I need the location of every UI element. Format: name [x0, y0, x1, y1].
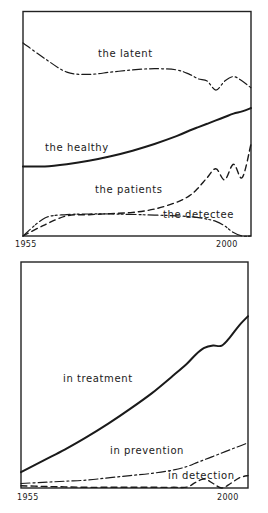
top-panel-curves — [23, 43, 251, 236]
label-in-treatment: in treatment — [63, 373, 133, 384]
label-the-healthy: the healthy — [45, 142, 109, 153]
x-tick-2000-bottom: 2000 — [217, 493, 239, 502]
label-the-detectee: the detectee — [163, 209, 234, 220]
top-panel: the latent the healthy the patients the … — [15, 12, 251, 250]
x-tick-1955-top: 1955 — [15, 240, 37, 249]
x-tick-1955-bottom: 1955 — [17, 493, 39, 502]
figure: the latent the healthy the patients the … — [0, 0, 268, 513]
label-the-patients: the patients — [95, 184, 163, 195]
top-panel-frame — [23, 12, 251, 237]
label-in-prevention: in prevention — [110, 445, 184, 456]
label-the-latent: the latent — [98, 48, 153, 59]
x-tick-2000-top: 2000 — [216, 240, 238, 249]
bottom-panel-curves — [21, 316, 248, 488]
series-line-the-healthy — [23, 108, 251, 167]
label-in-detection: in detection — [168, 470, 235, 481]
bottom-panel: in treatment in prevention in detection … — [17, 262, 248, 502]
